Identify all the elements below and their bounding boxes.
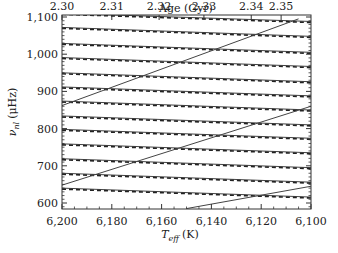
- mode-line-solid: [62, 116, 311, 125]
- mode-line-solid: [62, 173, 311, 182]
- top-tick-label: 2.31: [100, 0, 125, 13]
- mode-line-dashed: [62, 88, 311, 97]
- mode-line-dashed: [62, 174, 311, 183]
- y-tick-label: 700: [37, 160, 58, 173]
- mode-line-dashed: [62, 160, 311, 169]
- top-axis-title: Age (Gyr): [158, 2, 213, 15]
- mode-line-solid: [62, 129, 311, 138]
- plot-frame: [62, 15, 311, 209]
- mode-line-solid: [62, 27, 311, 36]
- x-tick-label: 6,160: [146, 215, 178, 228]
- y-tick-label: 800: [37, 123, 58, 136]
- y-axis-title: νnl(μHz): [6, 88, 21, 137]
- mode-line-dashed: [62, 74, 311, 83]
- y-tick-label: 1,000: [27, 48, 59, 61]
- mode-line-solid: [62, 73, 311, 82]
- top-tick-label: 2.30: [50, 0, 75, 13]
- x-tick-label: 6,120: [245, 215, 277, 228]
- mixed-mode-line: [187, 186, 312, 208]
- mode-line-dashed: [62, 28, 311, 37]
- mode-line-dashed: [62, 189, 311, 198]
- mode-line-dashed: [62, 102, 311, 111]
- mode-line-solid: [62, 43, 311, 52]
- x-tick-label: 6,200: [46, 215, 78, 228]
- mode-line-solid: [62, 58, 311, 67]
- x-tick-label: 6,100: [295, 215, 327, 228]
- mode-line-solid: [62, 101, 311, 110]
- axis-ticks: [62, 15, 311, 209]
- x-tick-label: 6,180: [96, 215, 128, 228]
- top-tick-label: 2.35: [269, 0, 294, 13]
- y-tick-label: 900: [37, 85, 58, 98]
- plot-lines: [62, 13, 311, 208]
- y-tick-label: 600: [37, 197, 58, 210]
- mode-line-dashed: [62, 14, 311, 22]
- x-tick-label: 6,140: [196, 215, 228, 228]
- mode-line-solid: [62, 159, 311, 168]
- frequency-evolution-chart: 6,2006,1806,1606,1406,1206,1006007008009…: [0, 0, 338, 253]
- mode-line-dashed: [62, 130, 311, 139]
- top-tick-label: 2.34: [239, 0, 264, 13]
- x-axis-title: Teff(K): [161, 228, 199, 243]
- mode-line-dashed: [62, 44, 311, 53]
